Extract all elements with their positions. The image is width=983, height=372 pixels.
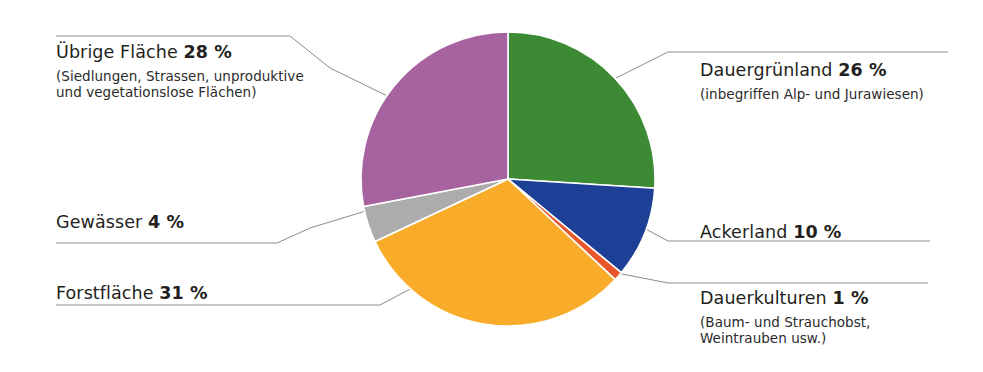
label-forstflaeche-name: Forstfläche bbox=[56, 283, 154, 303]
label-ackerland-name: Ackerland bbox=[700, 222, 787, 242]
label-dauergruenland-value: 26 % bbox=[838, 60, 886, 80]
label-dauergruenland-sub: (inbegriffen Alp- und Jurawiesen) bbox=[700, 86, 924, 103]
label-forstflaeche-title: Forstfläche 31 % bbox=[56, 283, 208, 305]
label-uebrige-flaeche-title: Übrige Fläche 28 % bbox=[56, 42, 304, 64]
label-uebrige-flaeche-sub-line-1: (Siedlungen, Strassen, unproduktive bbox=[56, 68, 304, 85]
label-ackerland-title: Ackerland 10 % bbox=[700, 222, 842, 244]
label-gewaesser-value: 4 % bbox=[148, 212, 184, 232]
label-forstflaeche-value: 31 % bbox=[159, 283, 207, 303]
label-dauerkulturen-sub-line-1: (Baum- und Strauchobst, bbox=[700, 314, 870, 331]
label-uebrige-flaeche: Übrige Fläche 28 % (Siedlungen, Strassen… bbox=[56, 42, 304, 101]
pie-chart-figure: Dauergrünland 26 %Ackerland 10 %Dauerkul… bbox=[0, 0, 983, 372]
label-gewaesser: Gewässer 4 % bbox=[56, 212, 184, 234]
label-uebrige-flaeche-value: 28 % bbox=[184, 42, 232, 62]
pie-slice-dauergruenland[interactable]: Dauergrünland 26 % bbox=[508, 32, 655, 188]
label-ackerland-value: 10 % bbox=[793, 222, 841, 242]
label-uebrige-flaeche-sub: (Siedlungen, Strassen, unproduktive und … bbox=[56, 68, 304, 101]
label-gewaesser-title: Gewässer 4 % bbox=[56, 212, 184, 234]
leader-line-dauerkulturen bbox=[612, 272, 928, 283]
label-dauergruenland-sub-line-1: (inbegriffen Alp- und Jurawiesen) bbox=[700, 86, 924, 103]
label-uebrige-flaeche-name: Übrige Fläche bbox=[56, 42, 178, 62]
label-dauergruenland: Dauergrünland 26 % (inbegriffen Alp- und… bbox=[700, 60, 924, 102]
label-dauergruenland-title: Dauergrünland 26 % bbox=[700, 60, 924, 82]
label-ackerland: Ackerland 10 % bbox=[700, 222, 842, 244]
label-dauerkulturen: Dauerkulturen 1 % (Baum- und Strauchobst… bbox=[700, 288, 870, 347]
label-dauerkulturen-sub-line-2: Weintrauben usw.) bbox=[700, 330, 870, 347]
label-dauerkulturen-sub: (Baum- und Strauchobst, Weintrauben usw.… bbox=[700, 314, 870, 347]
label-uebrige-flaeche-sub-line-2: und vegetationslose Flächen) bbox=[56, 84, 304, 101]
label-dauergruenland-name: Dauergrünland bbox=[700, 60, 833, 80]
pie-slices-group: Dauergrünland 26 %Ackerland 10 %Dauerkul… bbox=[361, 32, 655, 326]
label-forstflaeche: Forstfläche 31 % bbox=[56, 283, 208, 305]
label-gewaesser-name: Gewässer bbox=[56, 212, 142, 232]
label-dauerkulturen-title: Dauerkulturen 1 % bbox=[700, 288, 870, 310]
label-dauerkulturen-name: Dauerkulturen bbox=[700, 288, 827, 308]
label-dauerkulturen-value: 1 % bbox=[832, 288, 868, 308]
pie-slice-uebrige-flaeche[interactable]: Übrige Fläche 28 % bbox=[361, 32, 508, 207]
